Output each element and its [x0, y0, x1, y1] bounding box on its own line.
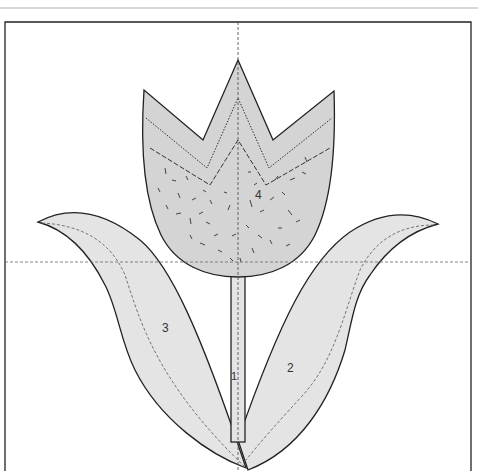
- piece-label-2: 2: [287, 361, 294, 375]
- piece-label-4: 4: [255, 188, 262, 202]
- piece-label-1: 1: [231, 370, 237, 382]
- piece-label-3: 3: [162, 321, 169, 335]
- tulip-pattern-diagram: 4 3 2 1: [0, 0, 478, 471]
- tulip-flower-piece: [143, 60, 335, 277]
